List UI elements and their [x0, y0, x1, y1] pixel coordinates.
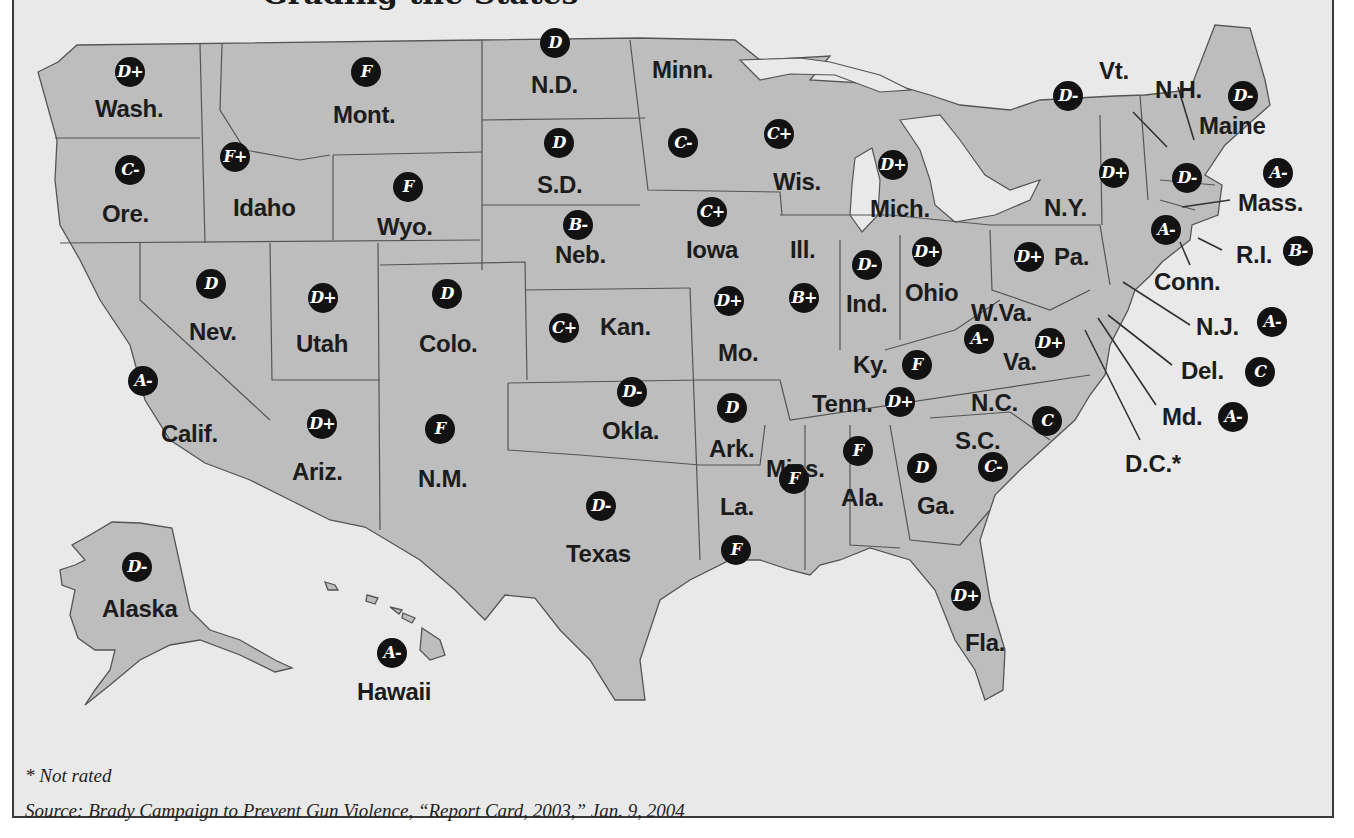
grade-badge: D- — [1172, 163, 1202, 193]
grade-badge: D- — [586, 491, 616, 521]
state-label: Del. — [1181, 357, 1224, 385]
state-label: N.C. — [971, 389, 1018, 417]
state-label: N.M. — [418, 465, 467, 493]
grade-badge: D — [196, 269, 226, 299]
grade-badge: C+ — [697, 197, 727, 227]
grade-badge: D- — [852, 250, 882, 280]
state-label: Ohio — [905, 279, 958, 307]
grade-badge: F+ — [220, 142, 250, 172]
grade-badge: C+ — [764, 119, 794, 149]
state-label: Colo. — [419, 330, 478, 358]
grade-badge: D+ — [912, 237, 942, 267]
grade-badge: C — [1032, 406, 1062, 436]
state-label: Neb. — [555, 241, 606, 269]
grade-badge: B+ — [789, 283, 819, 313]
state-label: N.D. — [531, 71, 578, 99]
state-label: Mich. — [870, 195, 930, 223]
state-label: Conn. — [1154, 268, 1220, 296]
grade-badge: A- — [1218, 402, 1248, 432]
grade-badge: C- — [978, 452, 1008, 482]
state-label: Kan. — [600, 313, 651, 341]
state-label: Alaska — [102, 595, 178, 623]
state-label: Calif. — [161, 420, 218, 448]
grade-badge: F — [351, 57, 381, 87]
grade-badge: D — [540, 28, 570, 58]
state-label: Maine — [1199, 112, 1266, 140]
grade-badge: F — [425, 414, 455, 444]
grade-badge: D+ — [1099, 158, 1129, 188]
state-label: Ind. — [846, 290, 887, 318]
state-label: Md. — [1162, 403, 1202, 431]
state-label: Hawaii — [357, 678, 431, 706]
grade-badge: F — [843, 436, 873, 466]
us-map — [0, 0, 1354, 838]
state-label: N.Y. — [1044, 194, 1087, 222]
grade-badge: A- — [377, 638, 407, 668]
grade-badge: D- — [617, 377, 647, 407]
state-label: Minn. — [652, 56, 713, 84]
grade-badge: D- — [1228, 81, 1258, 111]
grade-badge: D+ — [878, 150, 908, 180]
state-label: Pa. — [1054, 243, 1089, 271]
state-label: Ky. — [853, 351, 888, 379]
grade-badge: C+ — [549, 313, 579, 343]
grade-badge: D- — [122, 552, 152, 582]
state-label: Iowa — [686, 236, 738, 264]
grade-badge: D — [432, 279, 462, 309]
grade-badge: F — [902, 350, 932, 380]
state-label: Utah — [296, 330, 348, 358]
state-label: Texas — [566, 540, 631, 568]
footnote: * Not rated — [25, 765, 112, 787]
grade-badge: D+ — [1014, 242, 1044, 272]
state-label: S.C. — [955, 427, 1000, 455]
state-label: N.H. — [1155, 76, 1202, 104]
state-label: Wis. — [773, 168, 821, 196]
grade-badge: D — [907, 453, 937, 483]
state-label: La. — [720, 493, 754, 521]
grade-badge: A- — [1151, 215, 1181, 245]
grade-badge: F — [721, 535, 751, 565]
state-label: R.I. — [1236, 241, 1272, 269]
grade-badge: B- — [563, 210, 593, 240]
grade-badge: B- — [1283, 236, 1313, 266]
grade-badge: D+ — [951, 581, 981, 611]
grade-badge: A- — [1257, 307, 1287, 337]
state-label: D.C.* — [1125, 450, 1181, 478]
state-label: Tenn. — [812, 390, 873, 418]
state-label: Okla. — [602, 417, 659, 445]
contiguous-us-shape — [38, 25, 1270, 700]
state-label: Ark. — [709, 435, 755, 463]
grade-badge: D — [717, 393, 747, 423]
grade-badge: D- — [1053, 81, 1083, 111]
state-label: Ore. — [102, 200, 149, 228]
grade-badge: D — [544, 128, 574, 158]
grade-badge: F — [393, 172, 423, 202]
state-label: Mont. — [333, 101, 395, 129]
grade-badge: D+ — [714, 286, 744, 316]
state-label: Ga. — [917, 492, 955, 520]
grade-badge: A- — [964, 324, 994, 354]
grade-badge: F — [779, 464, 809, 494]
source-citation: Source: Brady Campaign to Prevent Gun Vi… — [25, 800, 685, 822]
state-label: Mo. — [718, 339, 758, 367]
state-label: Wash. — [95, 95, 163, 123]
state-label: Mass. — [1238, 189, 1303, 217]
grade-badge: D+ — [885, 387, 915, 417]
grade-badge: A- — [128, 366, 158, 396]
state-label: Ill. — [790, 236, 815, 264]
grade-badge: D+ — [307, 409, 337, 439]
state-label: Ala. — [841, 484, 884, 512]
state-label: Idaho — [233, 194, 296, 222]
state-label: Nev. — [189, 318, 237, 346]
state-label: W.Va. — [971, 299, 1032, 327]
grade-badge: C — [1245, 357, 1275, 387]
state-label: S.D. — [537, 171, 582, 199]
state-label: Vt. — [1099, 57, 1129, 85]
state-label: Fla. — [965, 629, 1005, 657]
state-label: Va. — [1003, 348, 1037, 376]
state-label: Ariz. — [292, 458, 343, 486]
state-label: N.J. — [1196, 313, 1239, 341]
grade-badge: A- — [1263, 158, 1293, 188]
grade-badge: C- — [115, 155, 145, 185]
grade-badge: C- — [668, 128, 698, 158]
